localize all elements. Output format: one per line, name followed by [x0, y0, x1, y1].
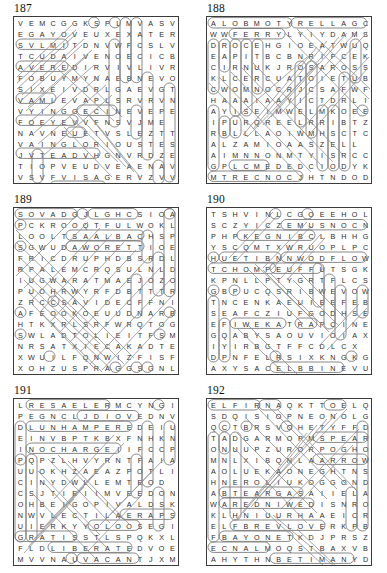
grid-cell[interactable]: E — [208, 51, 219, 62]
grid-cell[interactable]: O — [349, 172, 360, 183]
grid-cell[interactable]: O — [338, 106, 349, 117]
grid-cell[interactable]: Y — [349, 161, 360, 172]
grid-cell[interactable]: T — [295, 150, 306, 161]
grid-cell[interactable]: V — [37, 209, 48, 220]
grid-cell[interactable]: S — [113, 117, 124, 128]
grid-cell[interactable]: S — [113, 532, 124, 543]
grid-cell[interactable]: S — [167, 510, 178, 521]
grid-cell[interactable]: S — [349, 308, 360, 319]
grid-cell[interactable]: R — [15, 264, 26, 275]
grid-cell[interactable]: C — [124, 209, 135, 220]
grid-cell[interactable]: H — [102, 253, 113, 264]
grid-cell[interactable]: B — [295, 231, 306, 242]
grid-cell[interactable]: L — [219, 521, 230, 532]
grid-cell[interactable]: X — [69, 341, 80, 352]
grid-cell[interactable]: O — [37, 231, 48, 242]
grid-cell[interactable]: R — [230, 62, 241, 73]
grid-cell[interactable]: C — [338, 51, 349, 62]
grid-cell[interactable]: C — [306, 84, 317, 95]
grid-cell[interactable]: V — [273, 521, 284, 532]
grid-cell[interactable]: I — [37, 139, 48, 150]
grid-cell[interactable]: W — [69, 477, 80, 488]
grid-cell[interactable]: A — [80, 95, 91, 106]
grid-cell[interactable]: L — [262, 477, 273, 488]
grid-cell[interactable]: E — [284, 297, 295, 308]
grid-cell[interactable]: B — [241, 18, 252, 29]
grid-cell[interactable]: B — [251, 341, 262, 352]
grid-cell[interactable]: R — [262, 117, 273, 128]
grid-cell[interactable]: O — [273, 543, 284, 554]
grid-cell[interactable]: L — [338, 253, 349, 264]
grid-cell[interactable]: L — [219, 18, 230, 29]
grid-cell[interactable]: A — [295, 139, 306, 150]
grid-cell[interactable]: C — [156, 444, 167, 455]
grid-cell[interactable]: V — [145, 543, 156, 554]
puzzle-grid-187[interactable]: VEMCGGKSPLMVASVEGAYOVEUXEXATERSVLMITDNVW… — [13, 16, 179, 184]
grid-cell[interactable]: L — [69, 319, 80, 330]
grid-cell[interactable]: P — [262, 264, 273, 275]
grid-cell[interactable]: L — [124, 220, 135, 231]
grid-cell[interactable]: I — [69, 51, 80, 62]
grid-cell[interactable]: L — [15, 400, 26, 411]
grid-cell[interactable]: G — [306, 308, 317, 319]
grid-cell[interactable]: E — [241, 73, 252, 84]
grid-cell[interactable]: A — [338, 29, 349, 40]
grid-cell[interactable]: U — [273, 510, 284, 521]
grid-cell[interactable]: E — [241, 499, 252, 510]
grid-cell[interactable]: I — [306, 554, 317, 565]
grid-cell[interactable]: M — [145, 117, 156, 128]
grid-cell[interactable]: A — [273, 330, 284, 341]
grid-cell[interactable]: V — [134, 172, 145, 183]
grid-cell[interactable]: O — [145, 477, 156, 488]
grid-cell[interactable]: B — [262, 455, 273, 466]
grid-cell[interactable]: P — [317, 444, 328, 455]
grid-cell[interactable]: W — [208, 499, 219, 510]
grid-cell[interactable]: A — [156, 161, 167, 172]
grid-cell[interactable]: Q — [80, 352, 91, 363]
grid-cell[interactable]: R — [251, 400, 262, 411]
grid-cell[interactable]: F — [15, 543, 26, 554]
grid-cell[interactable]: F — [338, 422, 349, 433]
grid-cell[interactable]: I — [26, 433, 37, 444]
grid-cell[interactable]: O — [156, 488, 167, 499]
grid-cell[interactable]: V — [167, 411, 178, 422]
grid-cell[interactable]: V — [113, 499, 124, 510]
grid-cell[interactable]: E — [80, 29, 91, 40]
grid-cell[interactable]: M — [15, 554, 26, 565]
grid-cell[interactable]: O — [284, 466, 295, 477]
grid-cell[interactable]: E — [273, 532, 284, 543]
grid-cell[interactable]: T — [134, 330, 145, 341]
grid-cell[interactable]: W — [360, 253, 371, 264]
grid-cell[interactable]: A — [219, 433, 230, 444]
grid-cell[interactable]: G — [317, 466, 328, 477]
grid-cell[interactable]: T — [167, 128, 178, 139]
grid-cell[interactable]: S — [15, 209, 26, 220]
grid-cell[interactable]: O — [113, 411, 124, 422]
grid-cell[interactable]: G — [317, 477, 328, 488]
grid-cell[interactable]: R — [306, 444, 317, 455]
grid-cell[interactable]: R — [360, 510, 371, 521]
grid-cell[interactable]: I — [273, 477, 284, 488]
grid-cell[interactable]: O — [219, 466, 230, 477]
grid-cell[interactable]: O — [327, 444, 338, 455]
grid-cell[interactable]: B — [262, 51, 273, 62]
grid-cell[interactable]: A — [113, 341, 124, 352]
grid-cell[interactable]: U — [241, 286, 252, 297]
grid-cell[interactable]: T — [80, 433, 91, 444]
grid-cell[interactable]: R — [295, 319, 306, 330]
grid-cell[interactable]: B — [219, 128, 230, 139]
grid-cell[interactable]: H — [208, 253, 219, 264]
grid-cell[interactable]: D — [48, 51, 59, 62]
grid-cell[interactable]: V — [26, 40, 37, 51]
grid-cell[interactable]: L — [360, 209, 371, 220]
grid-cell[interactable]: E — [113, 297, 124, 308]
grid-cell[interactable]: Y — [91, 455, 102, 466]
grid-cell[interactable]: N — [91, 73, 102, 84]
grid-cell[interactable]: B — [37, 499, 48, 510]
grid-cell[interactable]: I — [360, 95, 371, 106]
grid-cell[interactable]: D — [91, 161, 102, 172]
grid-cell[interactable]: P — [15, 455, 26, 466]
grid-cell[interactable]: J — [145, 554, 156, 565]
grid-cell[interactable]: N — [37, 477, 48, 488]
grid-cell[interactable]: D — [58, 209, 69, 220]
